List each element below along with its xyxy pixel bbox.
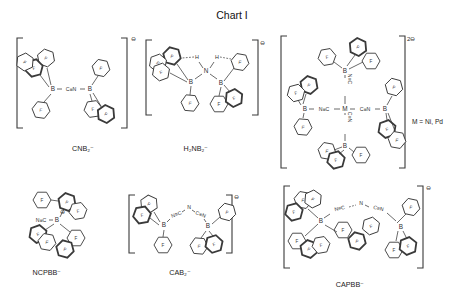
phenyl-ring [203,234,225,254]
rings [27,192,88,259]
rings-right-boron [210,53,250,112]
phenyl-ring [293,118,312,135]
boron-label: B [303,105,307,112]
cn-bridge-label: C≡N [360,106,371,112]
structure-h2nb2: ⊖ H H N B B H [146,39,265,153]
cn-bridge-label: C≡N [66,86,77,92]
rings-right-boron [376,77,407,149]
left-bracket [17,38,23,128]
phenyl-ring [230,53,250,71]
charge-label: ⊖ [131,35,136,42]
chart-page: F Chart I ⊖ B C≡N B [0,0,464,302]
bonds [170,57,234,96]
phenyl-ring [360,216,382,237]
structure-name: H₂NB₂⁻ [184,144,209,153]
phenyl-ring [154,237,172,253]
phenyl-ring [31,101,51,119]
nitrogen-label: N [204,67,209,74]
boron-label: B [206,222,210,229]
structure-name: CAPBB⁻ [336,280,364,289]
nc-bridge-label: N≡C [319,106,330,112]
phenyl-ring [216,202,237,222]
hydrogen-label: H [195,54,199,60]
charge-label: ⊖ [234,193,239,200]
charge-label: 2⊖ [407,35,415,42]
right-bracket [252,40,258,115]
metal-note: M = Ni, Pd [412,118,443,125]
left-bracket [146,40,152,115]
boron-label: B [319,217,323,224]
boron-label: B [51,85,55,92]
charge-label: ⊖ [260,39,265,46]
phenyl-ring [383,77,404,97]
cn-bridge-label: C≡N [195,209,207,219]
phenyl-ring [33,192,51,208]
rings-right-cluster [385,198,421,258]
boron-label: B [219,79,223,86]
structure-capbb: ⊖ [283,184,430,289]
boron-label: B [88,85,92,92]
phenyl-ring [334,222,352,238]
boron-label: B [189,78,193,85]
charge-label: ⊖ [426,184,431,191]
phenyl-ring [401,198,422,217]
rings-left-cluster [283,187,331,259]
boron-label: B [399,223,403,230]
structure-name: NCPBB⁻ [33,268,62,277]
chart-canvas: F Chart I ⊖ B C≡N B [0,0,464,302]
phenyl-ring [180,94,199,111]
nc-bridge-label: N≡C [334,204,346,212]
cn-bridge-label: C≡N [347,112,353,123]
structure-cnb2: ⊖ B C≡N B CNB₂⁻ [13,35,135,153]
left-bracket [129,195,135,253]
structure-cab2: ⊖ B N≡C N C≡N B CAB₂⁻ [129,193,239,277]
right-bracket [417,186,423,268]
chart-title: Chart I [216,9,248,21]
cn-bridge-label: C≡N [373,204,385,212]
structure-m-complex: 2⊖ M = Ni, Pd [281,35,443,170]
boron-label: B [55,216,59,223]
boron-label: B [383,105,387,112]
phenyl-ring [362,53,380,69]
nc-group-label: N≡C [36,217,47,223]
boron-label: B [162,221,166,228]
phenyl-ring [352,147,370,163]
boron-label: B [343,67,347,74]
left-bracket [284,186,290,268]
rings-middle-cluster [334,216,382,251]
structure-name: CAB₂⁻ [169,268,191,277]
mid-nitrogen-label: N [359,200,363,206]
left-bracket [281,36,287,168]
hydrogen-label: H [215,54,219,60]
phenyl-ring [317,48,337,66]
nc-bridge-label: N≡C [170,209,182,219]
nc-bridge-label: N≡C [347,74,353,85]
phenyl-ring [91,59,112,78]
structure-ncpbb: N≡C B ⊖ NCPBB⁻ [27,192,88,277]
charge-label: ⊖ [60,208,65,215]
right-bracket [121,38,127,128]
boron-label: B [343,142,347,149]
apex-nitrogen-label: N [187,204,191,210]
metal-label: M [342,105,347,112]
structure-name: CNB₂⁻ [72,144,94,153]
